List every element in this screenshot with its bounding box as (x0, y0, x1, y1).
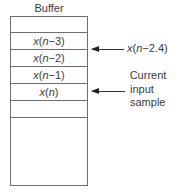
arrow-left-icon (92, 49, 124, 50)
row-var: x (40, 86, 46, 98)
annotation-fractional-delay: x(n−2.4) (127, 42, 168, 56)
buffer-row-x-n: x(n) (11, 84, 87, 101)
buffer-row-x-n-1: x(n−1) (11, 67, 87, 84)
annotation-arg-offset: −2.4 (142, 42, 164, 54)
row-var: x (33, 35, 39, 47)
annotation-var: x (127, 42, 133, 54)
annotation-line: input (128, 83, 168, 97)
row-var: x (33, 52, 39, 64)
arrow-left-icon (92, 91, 125, 92)
buffer-title: Buffer (10, 2, 88, 14)
buffer-row-empty-1 (11, 101, 87, 118)
buffer-row-empty-top (11, 17, 87, 33)
annotation-current-input: Current input sample (128, 69, 168, 110)
row-arg-offset: −1 (49, 69, 62, 81)
row-arg-var: n (49, 86, 55, 98)
buffer-box: x(n−3) x(n−2) x(n−1) x(n) (10, 16, 88, 186)
row-arg-offset: −2 (49, 52, 62, 64)
annotation-line: Current (128, 69, 168, 83)
row-arg-offset: −3 (49, 35, 62, 47)
annotation-line: sample (128, 96, 168, 110)
row-var: x (33, 69, 39, 81)
buffer-row-x-n-2: x(n−2) (11, 50, 87, 67)
buffer-row-x-n-3: x(n−3) (11, 33, 87, 50)
